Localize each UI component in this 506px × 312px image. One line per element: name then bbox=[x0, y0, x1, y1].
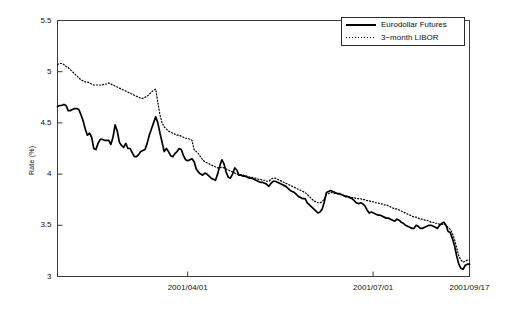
x-tick-marks bbox=[188, 272, 373, 277]
axes-frame bbox=[58, 21, 470, 277]
y-tick-label: 3.5 bbox=[18, 220, 52, 229]
series-line-3-month-libor bbox=[58, 64, 470, 263]
legend-label-eurodollar-futures: Eurodollar Futures bbox=[381, 20, 447, 29]
x-tick-label: 2001/09/17 bbox=[430, 283, 506, 292]
legend-item-3-month-libor: 3−month LIBOR bbox=[342, 31, 464, 44]
y-tick-label: 4.5 bbox=[18, 118, 52, 127]
plot-area bbox=[0, 0, 506, 312]
legend-swatch-solid-line bbox=[346, 20, 376, 30]
series-line-eurodollar-futures bbox=[58, 104, 470, 269]
chart-figure: Rate (%) 33.544.555.5 2001/04/012001/07/… bbox=[0, 0, 506, 312]
legend-item-eurodollar-futures: Eurodollar Futures bbox=[342, 18, 464, 31]
y-tick-marks bbox=[58, 21, 63, 277]
y-tick-label: 5.5 bbox=[18, 16, 52, 25]
legend-swatch-dotted-line bbox=[346, 33, 376, 43]
y-tick-label: 5 bbox=[18, 67, 52, 76]
y-tick-label: 4 bbox=[18, 169, 52, 178]
legend: Eurodollar Futures 3−month LIBOR bbox=[341, 17, 465, 46]
x-tick-label: 2001/04/01 bbox=[148, 283, 228, 292]
y-tick-label: 3 bbox=[18, 272, 52, 281]
x-tick-label: 2001/07/01 bbox=[333, 283, 413, 292]
legend-label-3-month-libor: 3−month LIBOR bbox=[381, 33, 439, 42]
